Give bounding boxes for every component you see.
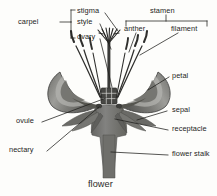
- carpel-bracket: [60, 10, 75, 38]
- flower-illustration: [48, 28, 170, 178]
- label-petal: petal: [172, 72, 188, 79]
- label-style: style: [77, 18, 92, 25]
- label-filament: filament: [171, 25, 197, 32]
- label-ovary: ovary: [77, 33, 95, 40]
- stigma-shape: [98, 28, 120, 43]
- leader-stigma: [105, 13, 118, 31]
- label-ovule: ovule: [16, 117, 34, 124]
- label-nectary: nectary: [9, 146, 34, 153]
- label-carpel: carpel: [18, 18, 38, 25]
- label-receptacle: receptacle: [172, 125, 207, 132]
- leader-flower-stalk: [111, 152, 168, 155]
- label-stamen: stamen: [150, 7, 175, 14]
- ovary-shape: [101, 88, 117, 104]
- diagram-caption: flower: [88, 180, 113, 189]
- label-flower-stalk: flower stalk: [172, 150, 210, 157]
- label-stigma: stigma: [77, 7, 99, 14]
- stamen-shapes-left: [71, 31, 102, 99]
- style-shape: [107, 42, 110, 88]
- flower-diagram-page: carpel stigma style ovary stamen anther …: [0, 0, 217, 196]
- flower-stalk-shape: [103, 135, 115, 178]
- label-sepal: sepal: [172, 106, 190, 113]
- label-anther: anther: [124, 25, 145, 32]
- stamen-shapes-right: [116, 31, 147, 99]
- leader-anther: [129, 33, 136, 52]
